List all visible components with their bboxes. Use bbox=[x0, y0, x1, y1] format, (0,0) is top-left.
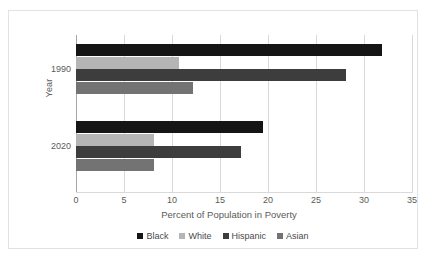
x-tick-label-30: 30 bbox=[352, 195, 376, 205]
category-label-2020: 2020 bbox=[33, 141, 71, 151]
legend-item-white[interactable]: White bbox=[179, 231, 211, 241]
x-tick-label-20: 20 bbox=[256, 195, 280, 205]
gridline bbox=[220, 35, 221, 192]
legend-swatch-icon bbox=[223, 233, 229, 239]
bar-black-1990 bbox=[76, 44, 382, 56]
legend-label: Black bbox=[146, 231, 168, 241]
x-tick-label-0: 0 bbox=[64, 195, 88, 205]
gridline bbox=[268, 35, 269, 192]
category-label-1990: 1990 bbox=[33, 64, 71, 74]
x-tick-label-15: 15 bbox=[208, 195, 232, 205]
x-tick-label-25: 25 bbox=[304, 195, 328, 205]
legend-label: White bbox=[188, 231, 211, 241]
x-tick-label-35: 35 bbox=[400, 195, 424, 205]
gridline bbox=[412, 35, 413, 192]
legend-label: Hispanic bbox=[232, 231, 267, 241]
x-tick-label-5: 5 bbox=[112, 195, 136, 205]
legend-swatch-icon bbox=[179, 233, 185, 239]
x-tick-label-10: 10 bbox=[160, 195, 184, 205]
legend-item-black[interactable]: Black bbox=[137, 231, 168, 241]
legend-item-hispanic[interactable]: Hispanic bbox=[223, 231, 267, 241]
bar-asian-2020 bbox=[76, 159, 154, 171]
category-axis-line bbox=[76, 192, 413, 193]
legend-label: Asian bbox=[286, 231, 309, 241]
bar-black-2020 bbox=[76, 121, 263, 133]
plot-area bbox=[76, 35, 412, 192]
x-axis-title: Percent of Population in Poverty bbox=[49, 209, 409, 220]
chart-legend: BlackWhiteHispanicAsian bbox=[9, 231, 428, 241]
gridline bbox=[364, 35, 365, 192]
bar-asian-1990 bbox=[76, 82, 193, 94]
legend-swatch-icon bbox=[137, 233, 143, 239]
bar-white-1990 bbox=[76, 57, 179, 69]
legend-item-asian[interactable]: Asian bbox=[277, 231, 309, 241]
legend-swatch-icon bbox=[277, 233, 283, 239]
chart-frame: Year 1990 2020 Percent of Population in … bbox=[8, 10, 418, 249]
bar-white-2020 bbox=[76, 134, 154, 146]
bar-hispanic-2020 bbox=[76, 146, 241, 158]
bar-hispanic-1990 bbox=[76, 69, 346, 81]
gridline bbox=[316, 35, 317, 192]
